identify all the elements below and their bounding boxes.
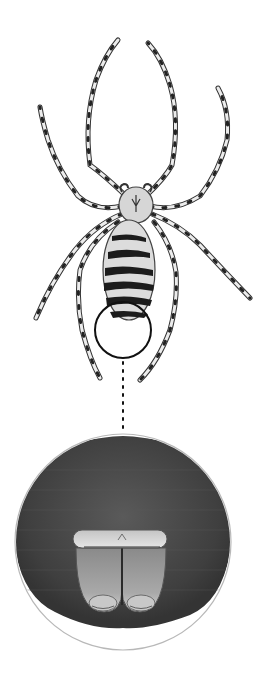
leg-third-right — [152, 214, 250, 298]
leg-front-left — [88, 40, 126, 196]
leg-front-right — [146, 43, 176, 196]
illustration-canvas — [0, 0, 268, 686]
leg-second-left — [40, 107, 122, 208]
leg-second-right — [150, 88, 228, 208]
spider-cephalothorax — [119, 184, 153, 223]
spinnerets — [73, 530, 167, 612]
detail-magnified-view — [14, 434, 232, 650]
spider-illustration — [0, 0, 268, 686]
